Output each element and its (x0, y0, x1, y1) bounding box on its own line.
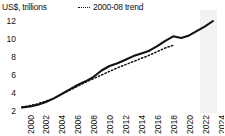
x-tick-label: 2004 (57, 115, 67, 134)
x-tick-label: 2006 (73, 115, 83, 134)
x-tick-label: 2002 (41, 115, 51, 134)
actual-line-series (22, 21, 213, 107)
x-tick-label: 2008 (89, 115, 99, 134)
trend-line-series (22, 45, 173, 107)
x-tick-label: 2000 (26, 115, 36, 134)
x-tick-label: 2020 (185, 115, 195, 134)
x-tick-label: 2012 (121, 115, 131, 134)
x-tick-label: 2014 (137, 115, 147, 134)
chart-container: US$, trillions 2000-08 trend 12108642 20… (0, 0, 224, 136)
x-tick-label: 2010 (105, 115, 115, 134)
x-tick-label: 2024 (217, 115, 225, 134)
x-tick-label: 2016 (153, 115, 163, 134)
x-tick-label: 2022 (201, 115, 211, 134)
x-tick-label: 2018 (169, 115, 179, 134)
